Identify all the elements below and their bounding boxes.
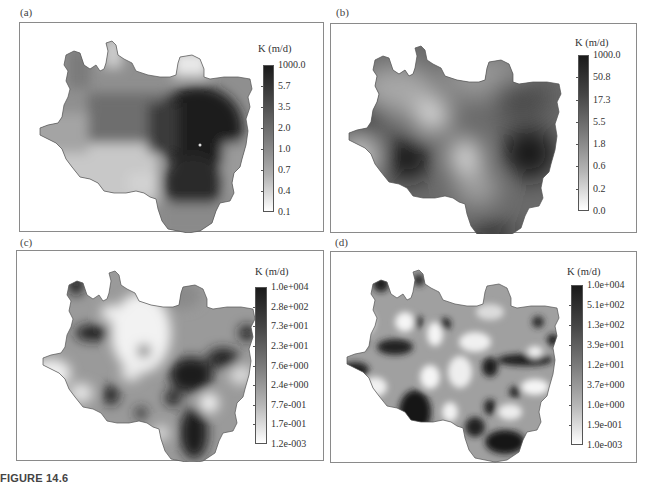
colorbar-tick-label: 1.0e+000 (587, 400, 625, 410)
colorbar-tick (253, 346, 256, 347)
colorbar-a (263, 65, 274, 212)
colorbar-tick (576, 77, 579, 78)
colorbar-tick (569, 305, 572, 306)
colorbar-tick (569, 385, 572, 386)
colorbar-tick (569, 345, 572, 346)
colorbar-tick-label: 0.7 (278, 165, 291, 175)
conductivity-map-c (17, 251, 257, 462)
colorbar-tick-label: 0.4 (278, 186, 291, 196)
colorbar-c (255, 287, 267, 444)
colorbar-tick-label: 1.9e-001 (587, 420, 622, 430)
colorbar-tick (261, 191, 264, 192)
colorbar-tick (261, 149, 264, 150)
colorbar-tick-label: 1.8 (593, 139, 606, 149)
colorbar-tick-label: 5.1e+002 (587, 300, 625, 310)
colorbar-tick (569, 325, 572, 326)
colorbar-tick-label: 1.0e-003 (587, 440, 622, 450)
colorbar-tick-label: 1000.0 (278, 60, 306, 70)
colorbar-tick-label: 7.6e+000 (271, 361, 309, 371)
panel-b-label: (b) (336, 6, 349, 18)
conductivity-map-b (331, 24, 571, 234)
colorbar-tick (253, 405, 256, 406)
colorbar-tick (576, 122, 579, 123)
colorbar-tick (576, 144, 579, 145)
colorbar-a-title: K (m/d) (258, 43, 292, 54)
colorbar-tick-label: 7.3e+001 (271, 321, 309, 331)
colorbar-tick (253, 326, 256, 327)
panel-d-label: (d) (335, 236, 348, 248)
colorbar-tick-label: 7.7e-001 (271, 400, 306, 410)
colorbar-d-title: K (m/d) (567, 266, 601, 277)
panel-b: K (m/d) 1000.050.817.35.51.80.60.20.0 (330, 23, 637, 233)
colorbar-tick-label: 2.0 (278, 123, 291, 133)
panel-c: K (m/d) 1.0e+0042.8e+0027.3e+0012.3e+001… (16, 250, 324, 461)
colorbar-tick-label: 2.8e+002 (271, 302, 309, 312)
panel-a-label: (a) (20, 6, 32, 18)
colorbar-tick (261, 170, 264, 171)
colorbar-tick (261, 107, 264, 108)
colorbar-tick-label: 1.0e+004 (271, 282, 309, 292)
panel-d: K (m/d) 1.0e+0045.1e+0021.3e+0023.9e+001… (330, 251, 637, 463)
colorbar-tick (576, 166, 579, 167)
colorbar-tick (253, 307, 256, 308)
conductivity-map-d (331, 252, 571, 464)
colorbar-tick-label: 0.1 (278, 207, 291, 217)
colorbar-tick-label: 0.0 (593, 206, 606, 216)
colorbar-tick-label: 3.9e+001 (587, 340, 625, 350)
colorbar-tick-label: 17.3 (593, 95, 611, 105)
colorbar-b (578, 55, 589, 211)
colorbar-tick-label: 1.7e-001 (271, 419, 306, 429)
colorbar-tick (569, 425, 572, 426)
colorbar-tick-label: 2.3e+001 (271, 341, 309, 351)
colorbar-tick-label: 1.2e+001 (587, 360, 625, 370)
colorbar-tick (576, 189, 579, 190)
panel-a: K (m/d) 1000.05.73.52.01.00.70.40.1 (19, 22, 324, 232)
colorbar-tick-label: 5.7 (278, 81, 291, 91)
colorbar-b-title: K (m/d) (575, 37, 609, 48)
colorbar-tick (261, 128, 264, 129)
colorbar-tick (253, 366, 256, 367)
colorbar-tick-label: 50.8 (593, 72, 611, 82)
colorbar-c-title: K (m/d) (255, 266, 289, 277)
colorbar-tick (261, 86, 264, 87)
colorbar-tick-label: 0.6 (593, 161, 606, 171)
colorbar-tick-label: 1.3e+002 (587, 320, 625, 330)
colorbar-tick-label: 1000.0 (593, 50, 621, 60)
colorbar-tick (569, 405, 572, 406)
colorbar-tick-label: 3.5 (278, 102, 291, 112)
colorbar-tick-label: 2.4e+000 (271, 380, 309, 390)
panel-c-label: (c) (20, 236, 32, 248)
colorbar-d (571, 285, 583, 445)
colorbar-tick-label: 5.5 (593, 117, 606, 127)
conductivity-map-a (20, 23, 260, 233)
colorbar-tick-label: 1.0 (278, 144, 291, 154)
colorbar-tick-label: 1.0e+004 (587, 280, 625, 290)
colorbar-tick (253, 424, 256, 425)
colorbar-tick-label: 3.7e+000 (587, 380, 625, 390)
figure-caption: FIGURE 14.6 (0, 472, 68, 484)
colorbar-tick (576, 100, 579, 101)
colorbar-tick (569, 365, 572, 366)
colorbar-tick (253, 385, 256, 386)
colorbar-tick-label: 1.2e-003 (271, 439, 306, 449)
colorbar-tick-label: 0.2 (593, 184, 606, 194)
